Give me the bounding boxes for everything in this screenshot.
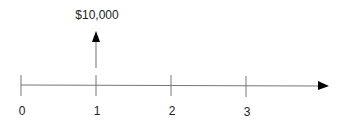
period-label-0: 0: [19, 104, 26, 118]
timeline-axis: [21, 85, 318, 86]
cash-flow-amount-label: $10,000: [75, 8, 118, 22]
period-label-2: 2: [169, 104, 176, 118]
timeline-arrowhead-icon: [318, 81, 329, 90]
cash-flow-arrowhead-icon: [92, 31, 100, 42]
period-label-3: 3: [244, 105, 251, 119]
period-label-1: 1: [94, 104, 101, 118]
